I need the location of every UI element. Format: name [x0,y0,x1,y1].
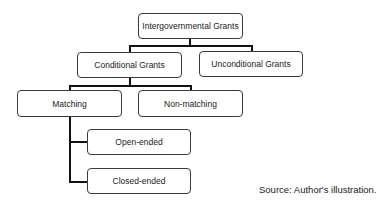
node-non-matching: Non-matching [138,90,243,117]
node-unconditional-grants: Unconditional Grants [199,51,303,77]
connector-to-open-ended [69,141,87,143]
node-intergovernmental-grants: Intergovernmental Grants [138,13,243,39]
node-closed-ended: Closed-ended [87,168,191,194]
node-conditional-grants: Conditional Grants [77,52,182,78]
source-caption: Source: Author's illustration. [259,184,376,195]
node-matching: Matching [17,90,122,117]
connector-to-closed-ended [69,181,87,183]
connector-to-conditional [129,45,131,52]
connector-conditional-bar [69,85,192,87]
connector-root-bar [129,45,253,47]
node-open-ended: Open-ended [87,129,191,155]
connector-matching-trunk [69,117,71,183]
